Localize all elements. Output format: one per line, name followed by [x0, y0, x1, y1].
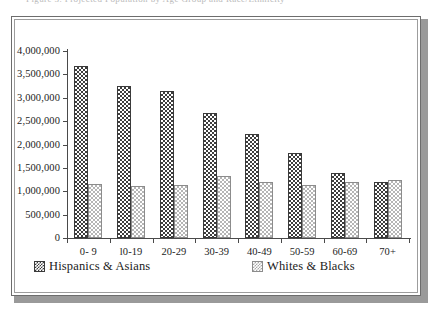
legend-label: Whites & Blacks: [267, 260, 355, 273]
x-axis-label: 0- 9: [67, 246, 110, 257]
bar-whites-blacks[interactable]: [217, 176, 231, 238]
bar-hispanics-asians[interactable]: [117, 86, 131, 238]
legend-label: Hispanics & Asians: [49, 260, 150, 273]
y-axis-label: 0: [55, 233, 60, 244]
chart-legend: Hispanics & AsiansWhites & Blacks: [30, 260, 410, 280]
y-axis-label: 2,000,000: [17, 140, 60, 151]
legend-item-whites-blacks[interactable]: Whites & Blacks: [252, 260, 355, 273]
y-axis-label: 1,500,000: [17, 163, 60, 174]
x-axis-label: 50-59: [281, 246, 324, 257]
legend-swatch-icon: [252, 261, 263, 272]
x-axis-label: 20-29: [153, 246, 196, 257]
bar-hispanics-asians[interactable]: [203, 113, 217, 238]
bar-whites-blacks[interactable]: [388, 180, 402, 238]
bar-hispanics-asians[interactable]: [331, 173, 345, 238]
x-axis-tick: [366, 239, 367, 243]
x-axis-label: 30-39: [195, 246, 238, 257]
x-axis-tick: [324, 239, 325, 243]
clipped-caption-text: Figure 3. Projected Population by Age Gr…: [0, 0, 439, 4]
bar-hispanics-asians[interactable]: [245, 134, 259, 238]
bar-whites-blacks[interactable]: [259, 182, 273, 238]
x-axis-tick: [281, 239, 282, 243]
bar-whites-blacks[interactable]: [302, 185, 316, 238]
x-axis-tick: [67, 239, 68, 243]
bar-hispanics-asians[interactable]: [288, 153, 302, 238]
x-axis-label: l0-19: [110, 246, 153, 257]
bar-hispanics-asians[interactable]: [160, 91, 174, 238]
bar-whites-blacks[interactable]: [174, 185, 188, 238]
bar-whites-blacks[interactable]: [131, 186, 145, 238]
x-axis-tick: [238, 239, 239, 243]
clipped-caption-strip: Figure 3. Projected Population by Age Gr…: [0, 0, 439, 9]
bar-whites-blacks[interactable]: [88, 184, 102, 238]
bar-whites-blacks[interactable]: [345, 182, 359, 238]
x-axis-label: 70+: [366, 246, 409, 257]
x-axis-tick: [153, 239, 154, 243]
x-axis-label: 40-49: [238, 246, 281, 257]
bar-hispanics-asians[interactable]: [374, 182, 388, 238]
plot-area: [67, 51, 409, 238]
bar-hispanics-asians[interactable]: [74, 66, 88, 238]
legend-item-hispanics-asians[interactable]: Hispanics & Asians: [34, 260, 150, 273]
x-axis-line: [67, 238, 411, 239]
y-axis-label: 500,000: [25, 210, 60, 221]
y-axis-label: 3,000,000: [17, 93, 60, 104]
y-axis-label: 4,000,000: [17, 46, 60, 57]
x-axis-tick: [409, 239, 410, 243]
y-axis-label: 1,000,000: [17, 186, 60, 197]
x-axis-tick: [110, 239, 111, 243]
x-axis-tick: [195, 239, 196, 243]
y-axis-label: 2,500,000: [17, 116, 60, 127]
y-axis-label: 3,500,000: [17, 69, 60, 80]
x-axis-label: 60-69: [324, 246, 367, 257]
legend-swatch-icon: [34, 261, 45, 272]
